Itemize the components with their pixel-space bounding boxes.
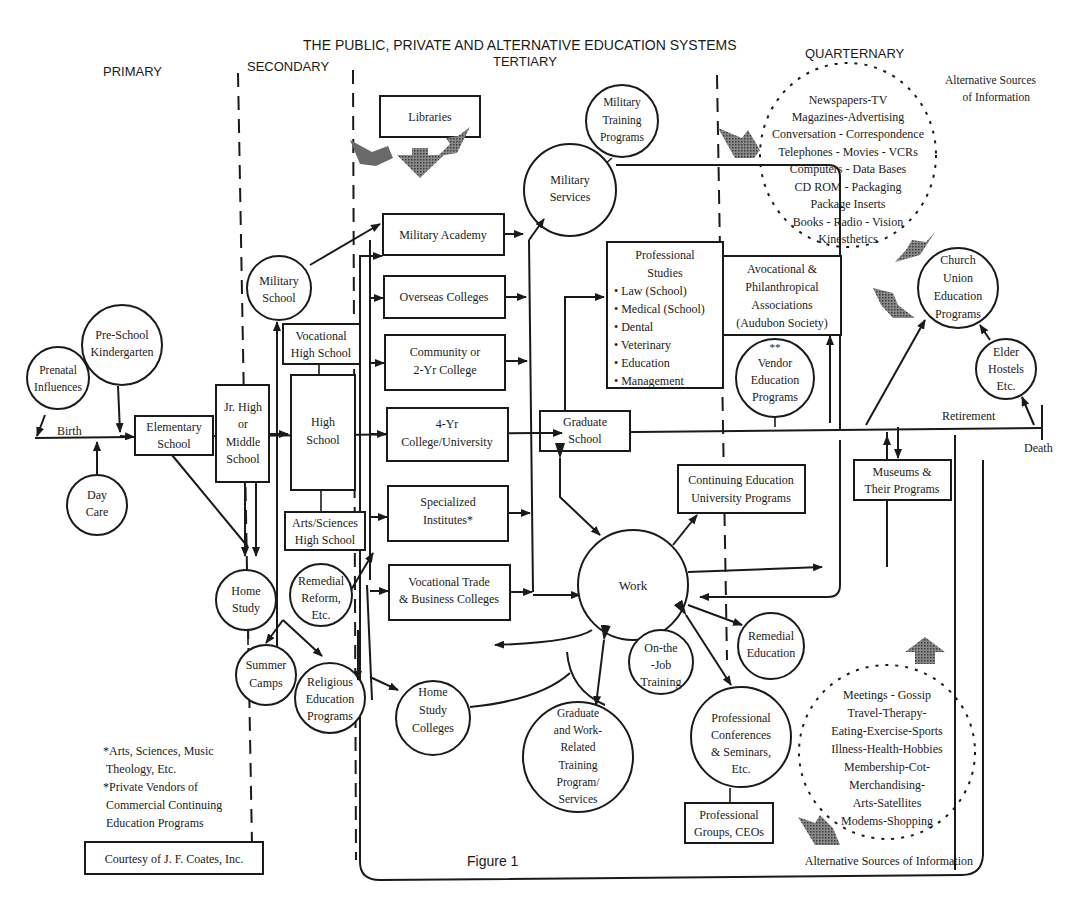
svg-text:Conversation - Correspondence: Conversation - Correspondence — [772, 127, 924, 141]
svg-text:Conferences: Conferences — [711, 728, 771, 742]
list-item: • Management — [614, 374, 685, 388]
alt-sources-top-line2: of Information — [963, 91, 1031, 103]
svg-text:Middle: Middle — [226, 435, 261, 449]
svg-text:Arts-Satellites: Arts-Satellites — [853, 796, 922, 810]
svg-text:2-Yr College: 2-Yr College — [414, 363, 477, 377]
node-summer-camps: Summer Camps — [236, 645, 296, 705]
svg-text:Related: Related — [560, 741, 595, 753]
node-elder-hostels: Elder Hostels Etc. — [976, 339, 1036, 399]
svg-text:Groups, CEOs: Groups, CEOs — [694, 825, 764, 839]
svg-text:-Job: -Job — [651, 658, 672, 672]
svg-text:Commercial Continuing: Commercial Continuing — [106, 798, 222, 812]
node-arts-sciences-high-school: Arts/Sciences High School — [285, 512, 365, 550]
svg-text:Telephones - Movies - VCRs: Telephones - Movies - VCRs — [778, 145, 918, 159]
node-military-academy: Military Academy — [383, 214, 504, 255]
svg-text:Illness-Health-Hobbies: Illness-Health-Hobbies — [831, 742, 943, 756]
svg-text:Services: Services — [559, 793, 598, 805]
svg-text:Program/: Program/ — [557, 776, 601, 789]
svg-text:Remedial: Remedial — [298, 574, 345, 588]
svg-text:& Seminars,: & Seminars, — [711, 745, 771, 759]
svg-text:**: ** — [770, 341, 781, 353]
figure-label: Figure 1 — [467, 853, 519, 869]
courtesy-box: Courtesy of J. F. Coates, Inc. — [85, 842, 263, 874]
svg-text:Graduate: Graduate — [557, 707, 599, 719]
svg-text:Studies: Studies — [647, 266, 683, 280]
node-vocational-trade-business-colleges: Vocational Trade & Business Colleges — [389, 565, 510, 620]
svg-text:Etc.: Etc. — [997, 379, 1016, 393]
alt-sources-bottom: Alternative Sources of Information — [805, 854, 973, 868]
svg-text:Kinesthetics: Kinesthetics — [818, 232, 878, 246]
svg-text:Specialized: Specialized — [420, 495, 475, 509]
svg-text:Work: Work — [619, 578, 648, 593]
svg-text:Military: Military — [259, 274, 298, 288]
node-professional-conferences: Professional Conferences & Seminars, Etc… — [691, 687, 791, 787]
svg-text:Influences: Influences — [34, 381, 82, 393]
svg-text:Training: Training — [558, 759, 597, 772]
column-quarternary: QUARTERNARY — [805, 46, 905, 61]
list-item: • Veterinary — [614, 338, 671, 352]
svg-text:*Arts, Sciences, Music: *Arts, Sciences, Music — [103, 744, 214, 758]
node-on-the-job-training: On-the -Job Training — [629, 630, 693, 694]
svg-text:Programs: Programs — [752, 390, 798, 404]
list-item: • Education — [614, 356, 670, 370]
node-professional-groups-ceos: Professional Groups, CEOs — [685, 803, 773, 843]
node-elementary-school: Elementary School — [135, 416, 213, 455]
node-high-school: High School — [291, 375, 355, 490]
svg-text:Vocational Trade: Vocational Trade — [408, 575, 489, 589]
node-overseas-colleges: Overseas Colleges — [384, 276, 505, 318]
node-home-study: Home Study — [216, 570, 276, 630]
svg-text:& Business Colleges: & Business Colleges — [399, 592, 499, 606]
svg-text:CD ROM - Packaging: CD ROM - Packaging — [795, 180, 902, 194]
svg-text:Professional: Professional — [699, 808, 759, 822]
node-4yr-college-university: 4-Yr College/University — [387, 408, 508, 461]
svg-text:Libraries: Libraries — [408, 110, 452, 124]
svg-text:Merchandising-: Merchandising- — [849, 778, 925, 792]
svg-text:High: High — [311, 415, 335, 429]
svg-text:Education: Education — [306, 692, 355, 706]
svg-text:Jr. High: Jr. High — [224, 400, 262, 414]
node-vocational-high-school: Vocational High School — [283, 324, 360, 364]
list-item: • Dental — [614, 320, 654, 334]
svg-text:Military: Military — [550, 173, 589, 187]
shaded-arrow-icon — [718, 128, 760, 158]
svg-text:Meetings - Gossip: Meetings - Gossip — [843, 688, 931, 702]
label-death: Death — [1024, 441, 1053, 455]
node-specialized-institutes: Specialized Institutes* — [388, 486, 508, 541]
svg-text:Prenatal: Prenatal — [39, 364, 77, 376]
svg-text:Elder: Elder — [993, 345, 1019, 359]
svg-text:Courtesy of J. F. Coates, Inc.: Courtesy of J. F. Coates, Inc. — [105, 852, 244, 866]
column-secondary: SECONDARY — [247, 59, 329, 74]
svg-text:Vocational: Vocational — [295, 329, 347, 343]
svg-text:Avocational &: Avocational & — [747, 262, 818, 276]
node-remedial-reform: Remedial Reform, Etc. — [290, 564, 352, 626]
node-work: Work — [578, 530, 688, 640]
svg-text:Home: Home — [231, 584, 260, 598]
column-tertiary: TERTIARY — [493, 54, 557, 69]
social-sources-circle: Meetings - Gossip Travel-Therapy- Eating… — [799, 665, 975, 839]
svg-text:Community or: Community or — [410, 345, 480, 359]
svg-text:Education: Education — [751, 373, 800, 387]
svg-text:Kindergarten: Kindergarten — [90, 345, 153, 359]
node-museums-programs: Museums & Their Programs — [854, 460, 951, 500]
svg-text:Graduate: Graduate — [563, 415, 607, 429]
svg-text:Philanthropical: Philanthropical — [745, 280, 819, 294]
svg-text:Museums &: Museums & — [872, 465, 932, 479]
svg-text:and Work-: and Work- — [554, 724, 603, 736]
node-home-study-colleges: Home Study Colleges — [396, 681, 470, 755]
node-prenatal-influences: Prenatal Influences — [27, 347, 89, 409]
node-preschool-kindergarten: Pre-School Kindergarten — [82, 305, 162, 385]
svg-text:Professional: Professional — [635, 248, 695, 262]
svg-text:Programs: Programs — [307, 709, 353, 723]
label-birth: Birth — [57, 424, 82, 438]
svg-text:(Audubon Society): (Audubon Society) — [736, 316, 828, 330]
svg-text:Newspapers-TV: Newspapers-TV — [809, 93, 888, 107]
svg-text:Religious: Religious — [307, 675, 353, 689]
svg-text:Etc.: Etc. — [312, 608, 331, 622]
svg-text:Remedial: Remedial — [748, 629, 795, 643]
node-vendor-education-programs: ** Vendor Education Programs — [736, 339, 814, 417]
node-avocational-philanthropical: Avocational & Philanthropical Associatio… — [723, 256, 841, 335]
node-military-training-programs: Military Training Programs — [586, 85, 658, 157]
node-religious-education-programs: Religious Education Programs — [295, 663, 365, 733]
svg-text:School: School — [226, 452, 260, 466]
node-jr-high-middle-school: Jr. High or Middle School — [216, 385, 269, 482]
